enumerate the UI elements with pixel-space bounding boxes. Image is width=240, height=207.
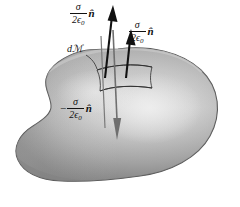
gaussian-surface-blob (0, 40, 240, 190)
fraction-numerator: σ (67, 97, 84, 108)
arrow-up-tall-head (108, 5, 118, 22)
fraction-sigma-over-2eps0: σ 2ϵ0 (70, 2, 87, 25)
n-hat-symbol: n̂ (89, 8, 95, 19)
fraction-denominator: 2ϵ0 (129, 33, 146, 44)
fraction-numerator: σ (129, 20, 146, 31)
label-field-up-right: σ 2ϵ0 n̂ (129, 21, 154, 44)
n-hat-symbol: n̂ (86, 103, 92, 114)
area-element-script-a: ℳ (72, 43, 83, 54)
label-field-down: − σ 2ϵ0 n̂ (60, 98, 92, 121)
fraction-sigma-over-2eps0: σ 2ϵ0 (129, 20, 146, 43)
label-area-element: dℳ (67, 44, 84, 54)
minus-sign: − (60, 103, 66, 114)
n-hat-symbol: n̂ (148, 26, 154, 37)
fraction-denominator: 2ϵ0 (70, 15, 87, 26)
fraction-denominator-subscript: 0 (140, 37, 144, 45)
physics-figure (0, 0, 240, 207)
label-field-up-left: σ 2ϵ0 n̂ (70, 3, 95, 26)
fraction-sigma-over-2eps0: σ 2ϵ0 (67, 97, 84, 120)
fraction-denominator: 2ϵ0 (67, 110, 84, 121)
fraction-numerator: σ (70, 2, 87, 13)
fraction-denominator-subscript: 0 (78, 114, 82, 122)
fraction-denominator-subscript: 0 (81, 19, 85, 27)
